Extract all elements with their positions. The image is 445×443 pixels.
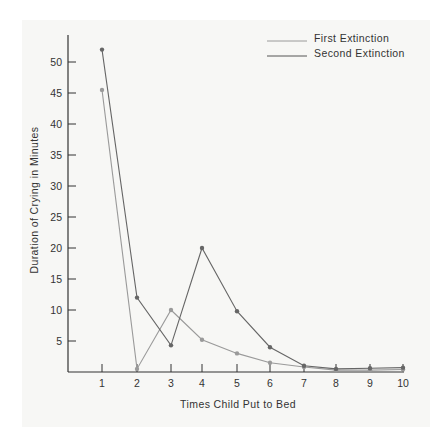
x-tick-label: 5 bbox=[234, 377, 240, 389]
data-point bbox=[334, 367, 338, 371]
data-point bbox=[169, 343, 173, 347]
data-point bbox=[268, 345, 272, 349]
data-point bbox=[368, 366, 372, 370]
x-tick-label: 8 bbox=[333, 377, 339, 389]
x-tick-label: 1 bbox=[99, 377, 105, 389]
x-tick-label: 3 bbox=[168, 377, 174, 389]
data-point bbox=[100, 47, 104, 51]
y-tick-label: 35 bbox=[50, 149, 62, 161]
legend: First Extinction Second Extinction bbox=[267, 32, 405, 59]
axes: 510152025303540455012345678910 bbox=[50, 35, 409, 389]
y-axis-title: Duration of Crying in Minutes bbox=[28, 127, 40, 274]
data-point bbox=[135, 367, 139, 371]
y-tick-label: 25 bbox=[50, 211, 62, 223]
x-tick-label: 10 bbox=[397, 377, 409, 389]
data-point bbox=[135, 295, 139, 299]
data-point bbox=[235, 309, 239, 313]
data-point bbox=[235, 351, 239, 355]
data-point bbox=[401, 365, 405, 369]
data-point bbox=[200, 338, 204, 342]
data-point bbox=[100, 88, 104, 92]
y-tick-label: 45 bbox=[50, 87, 62, 99]
y-tick-label: 30 bbox=[50, 180, 62, 192]
x-tick-label: 6 bbox=[267, 377, 273, 389]
series-group bbox=[100, 47, 405, 372]
data-point bbox=[268, 361, 272, 365]
series-line-second bbox=[102, 50, 403, 369]
line-chart: 510152025303540455012345678910 First Ext… bbox=[0, 0, 445, 443]
y-tick-label: 5 bbox=[56, 335, 62, 347]
y-tick-label: 20 bbox=[50, 242, 62, 254]
x-tick-label: 7 bbox=[301, 377, 307, 389]
y-tick-label: 15 bbox=[50, 273, 62, 285]
x-tick-label: 2 bbox=[134, 377, 140, 389]
data-point bbox=[169, 308, 173, 312]
x-axis-title: Times Child Put to Bed bbox=[180, 398, 296, 410]
y-tick-label: 50 bbox=[50, 56, 62, 68]
legend-label-first: First Extinction bbox=[314, 32, 389, 44]
y-tick-label: 40 bbox=[50, 118, 62, 130]
x-tick-label: 9 bbox=[367, 377, 373, 389]
legend-label-second: Second Extinction bbox=[314, 47, 405, 59]
data-point bbox=[200, 246, 204, 250]
x-tick-label: 4 bbox=[199, 377, 205, 389]
data-point bbox=[302, 364, 306, 368]
y-tick-label: 10 bbox=[50, 304, 62, 316]
